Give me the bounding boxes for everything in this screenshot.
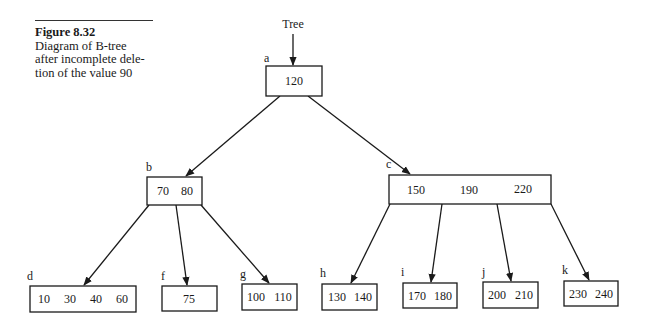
btree-diagram: Tree a 120 b 70 80 c 150 190 220 d 10 30… (0, 0, 650, 329)
node-i-key-1: 170 (408, 289, 426, 303)
node-a-label: a (264, 51, 270, 65)
node-a-key-1: 120 (285, 74, 303, 88)
edge-c-j (497, 204, 511, 281)
node-g-key-1: 100 (247, 290, 265, 304)
node-c-key-1: 150 (407, 183, 425, 197)
node-f-key-1: 75 (183, 292, 195, 306)
node-j-key-2: 210 (515, 288, 533, 302)
node-d: d 10 30 40 60 (27, 269, 136, 312)
edge-a-c (308, 96, 410, 174)
node-g: g 100 110 (240, 267, 297, 310)
node-i-label: i (401, 265, 405, 279)
node-b-box (147, 177, 202, 205)
edge-c-k (551, 204, 589, 280)
edge-c-h (351, 204, 390, 283)
node-h-key-1: 130 (328, 290, 346, 304)
node-i: i 170 180 (401, 265, 457, 308)
node-b: b 70 80 (146, 160, 202, 205)
node-k: k 230 240 (562, 263, 618, 306)
node-j-label: j (481, 265, 485, 279)
edge-a-b (186, 96, 280, 176)
node-h: h 130 140 (320, 266, 377, 310)
node-h-label: h (320, 266, 326, 280)
node-g-label: g (240, 267, 246, 281)
node-d-label: d (27, 269, 33, 283)
edge-b-g (201, 205, 269, 283)
node-d-key-3: 40 (90, 292, 102, 306)
node-b-label: b (146, 160, 152, 174)
node-i-key-2: 180 (434, 289, 452, 303)
node-c: c 150 190 220 (386, 157, 551, 204)
node-b-key-2: 80 (181, 184, 193, 198)
node-c-key-2: 190 (460, 183, 478, 197)
node-d-key-4: 60 (116, 292, 128, 306)
node-f: f 75 (161, 269, 217, 311)
node-d-key-2: 30 (64, 292, 76, 306)
node-k-key-2: 240 (595, 287, 613, 301)
node-d-key-1: 10 (38, 292, 50, 306)
node-c-label: c (386, 157, 391, 171)
node-b-key-1: 70 (157, 184, 169, 198)
node-f-label: f (161, 269, 165, 283)
node-k-key-1: 230 (569, 287, 587, 301)
node-g-key-2: 110 (274, 290, 292, 304)
edge-b-d (84, 205, 149, 285)
tree-pointer-label: Tree (282, 17, 304, 31)
node-c-key-3: 220 (514, 182, 532, 196)
edge-c-i (431, 204, 442, 282)
node-h-key-2: 140 (354, 290, 372, 304)
node-k-label: k (562, 263, 568, 277)
edge-b-f (176, 205, 187, 285)
node-j-key-1: 200 (488, 288, 506, 302)
